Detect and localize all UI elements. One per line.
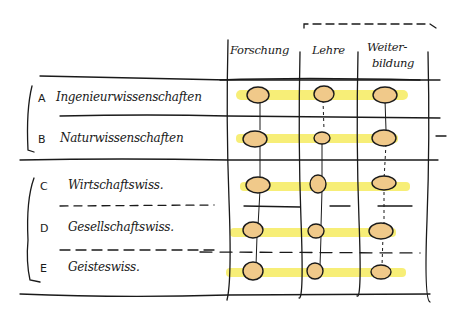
rating-blobs: [243, 86, 397, 280]
row-letter-b: B: [38, 133, 46, 146]
row-label-naturwissenschaften: Naturwissenschaften: [60, 131, 183, 145]
column-header-forschung: Forschung: [230, 43, 289, 57]
column-header-weiterbildung-2: bildung: [372, 56, 414, 70]
row-label-gesellschaftswiss: Gesellschaftswiss.: [68, 220, 174, 234]
row-letter-a: A: [38, 92, 46, 105]
row-label-ingenieurwissenschaften: Ingenieurwissenschaften: [56, 90, 202, 104]
column-header-weiterbildung-1: Weiter-: [367, 40, 407, 54]
row-label-geisteswiss: Geisteswiss.: [68, 260, 139, 274]
row-letter-e: E: [40, 262, 47, 275]
row-label-wirtschaftswiss: Wirtschaftswiss.: [68, 178, 163, 192]
row-letter-d: D: [40, 222, 48, 235]
row-letter-c: C: [40, 180, 48, 193]
column-header-lehre: Lehre: [312, 43, 345, 57]
